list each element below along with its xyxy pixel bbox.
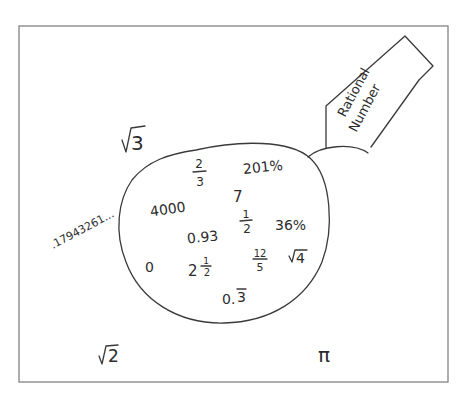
item-four-thousand: 4000 <box>149 199 187 220</box>
fraction-denominator: 5 <box>257 261 264 274</box>
fraction-numerator: 12 <box>254 248 267 259</box>
set-label-group: Rational Number <box>331 65 388 134</box>
item-zero-point-93: 0.93 <box>186 227 219 246</box>
fraction-numerator: 1 <box>243 208 250 221</box>
item-two-and-a-half: 2 1 2 <box>188 256 211 280</box>
fraction-denominator: 3 <box>196 175 204 189</box>
callout-connector-arc <box>308 146 368 157</box>
item-non-repeating-decimal: .179432​61... <box>48 207 116 251</box>
mixed-whole: 2 <box>188 262 198 280</box>
fraction-numerator: 2 <box>195 157 203 171</box>
item-one-half: 1 2 <box>240 208 252 236</box>
item-zero: 0 <box>145 259 154 275</box>
item-201-percent: 201% <box>242 157 283 177</box>
item-sqrt-2: 2 <box>99 345 119 366</box>
item-36-percent: 36% <box>275 217 306 233</box>
decimal-prefix: 0. <box>222 291 235 307</box>
repeating-digit: 3 <box>237 289 246 305</box>
item-twelve-fifths: 12 5 <box>253 248 267 274</box>
item-sqrt-3: 3 <box>122 126 145 155</box>
item-seven: 7 <box>233 188 243 206</box>
item-two-thirds: 2 3 <box>193 157 206 189</box>
radicand: 3 <box>131 131 144 155</box>
item-zero-point-3-repeating: 0. 3 <box>222 289 246 307</box>
fraction-denominator: 2 <box>243 222 251 236</box>
item-pi: π <box>318 343 330 367</box>
fraction-bar <box>193 171 206 172</box>
diagram-canvas: Rational Number 2 3 201% 7 4000 1 2 36% … <box>0 0 464 402</box>
item-sqrt-4: 4 <box>289 250 307 266</box>
radicand: 4 <box>296 250 305 266</box>
fraction-numerator: 1 <box>203 256 209 266</box>
fraction-denominator: 2 <box>204 267 210 278</box>
radicand: 2 <box>108 346 119 366</box>
